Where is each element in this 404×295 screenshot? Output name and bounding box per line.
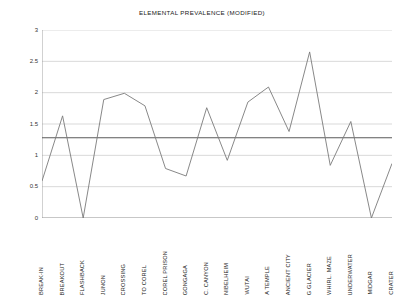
y-axis-label: 2: [35, 89, 38, 95]
x-axis-label: BREAKOUT: [60, 263, 66, 295]
x-axis-label: UNDERWATER: [348, 254, 354, 295]
x-axis-label: ANCIENT CITY: [286, 254, 292, 295]
y-axis-label: 1: [35, 152, 38, 158]
chart-title: ELEMENTAL PREVALENCE (MODIFIED): [0, 9, 404, 16]
chart-plot-svg: [42, 30, 392, 218]
x-axis-label: CRATER: [389, 271, 395, 295]
x-axis-label: GONGAGA: [183, 265, 189, 295]
y-axis-label: 2.5: [30, 58, 38, 64]
x-axis-label: CROSSING: [121, 264, 127, 295]
y-axis-label: 0.5: [30, 183, 38, 189]
x-axis-label: G GLACIER: [307, 263, 313, 295]
gridlines: [42, 30, 392, 218]
chart-container: ELEMENTAL PREVALENCE (MODIFIED) 00.511.5…: [0, 0, 404, 295]
y-axis-label: 3: [35, 27, 38, 33]
y-axis-label: 1.5: [30, 121, 38, 127]
series-line-path: [42, 52, 392, 218]
x-axis-tick-labels: BREAK-INBREAKOUTFLASHBACKJUNONCROSSINGTO…: [42, 222, 392, 295]
y-axis-tick-labels: 00.511.522.53: [0, 0, 38, 295]
x-axis-label: TO COREL: [142, 265, 148, 295]
x-axis-label: WHIRL. MAZE: [327, 256, 333, 295]
x-axis-label: NIBELHEIM: [224, 263, 230, 295]
x-axis-label: FLASHBACK: [80, 260, 86, 295]
plot-area: [42, 30, 392, 218]
y-axis-label: 0: [35, 215, 38, 221]
x-axis-label: BREAK-IN: [39, 267, 45, 295]
x-axis-label: MIDGAR: [368, 271, 374, 295]
x-axis-label: C. CANYON: [204, 262, 210, 295]
x-axis-label: WUTAI: [245, 276, 251, 295]
x-axis-label: A TEMPLE: [265, 266, 271, 295]
x-axis-label: COREL PRISON: [163, 251, 169, 295]
x-axis-label: JUNON: [101, 275, 107, 295]
data-series-line: [42, 52, 392, 218]
